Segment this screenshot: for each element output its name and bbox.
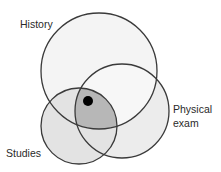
physical-exam-label-line1: Physical <box>173 103 212 115</box>
studies-label: Studies <box>6 147 41 159</box>
venn-diagram: History Physical exam Studies <box>0 0 221 172</box>
diagnosis-dot <box>83 96 93 106</box>
history-label: History <box>20 18 53 30</box>
physical-exam-label-line2: exam <box>173 117 199 129</box>
